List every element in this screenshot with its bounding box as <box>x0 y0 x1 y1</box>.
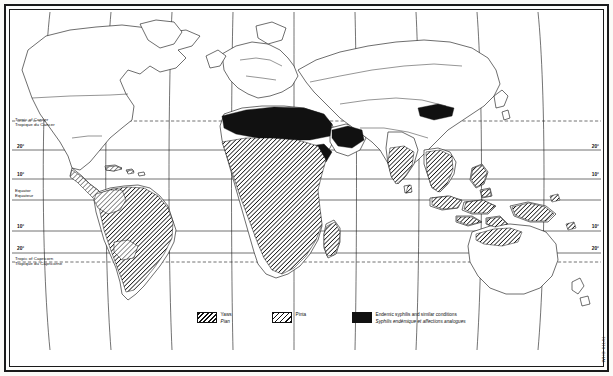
legend-syphilis-en: Endemic syphilis and similar conditions <box>376 312 457 317</box>
legend-yaws-fr: Pian <box>221 319 230 324</box>
legend-swatch-endemic-syphilis-icon <box>352 312 372 323</box>
legend-swatch-yaws-icon <box>197 312 217 323</box>
tropic-cancer-fr: Tropique du Cancer <box>15 122 55 127</box>
map-plate <box>10 10 603 366</box>
legend-item-endemic-syphilis[interactable]: Endemic syphilis and similar conditions … <box>352 312 466 326</box>
legend-swatch-pinta-icon <box>272 312 292 323</box>
legend-label-endemic-syphilis: Endemic syphilis and similar conditions … <box>376 312 466 326</box>
lat-label-left-10s: 10° <box>17 224 24 229</box>
lat-label-left-20s: 20° <box>17 246 24 251</box>
legend-item-yaws[interactable]: Yaws Pian <box>197 312 232 326</box>
lat-label-right-20s: 20° <box>592 246 599 251</box>
who-credit-mark: WHO 61141 <box>601 336 606 362</box>
tropic-capricorn-fr: Tropique du Capricorne <box>15 261 62 266</box>
legend-label-pinta: Pinta <box>296 312 307 319</box>
label-tropic-of-capricorn: Tropic of Capricorn Tropique du Capricor… <box>15 256 62 267</box>
legend-item-pinta[interactable]: Pinta <box>272 312 306 323</box>
label-equator: Equator Equateur <box>15 188 33 199</box>
equator-fr: Equateur <box>15 193 33 198</box>
legend-label-yaws: Yaws Pian <box>221 312 232 326</box>
legend-syphilis-fr: Syphilis endémique et affections analogu… <box>376 319 466 324</box>
label-tropic-of-cancer: Tropic of Cancer Tropique du Cancer <box>15 117 55 128</box>
world-map-svg <box>10 10 603 366</box>
lat-label-left-10n: 10° <box>17 172 24 177</box>
lat-label-left-20n: 20° <box>17 144 24 149</box>
lat-label-right-10s: 10° <box>592 224 599 229</box>
legend-yaws-en: Yaws <box>221 312 232 317</box>
lat-label-right-10n: 10° <box>592 172 599 177</box>
map-sheet: Tropic of Cancer Tropique du Cancer 20° … <box>0 0 613 376</box>
lat-label-right-20n: 20° <box>592 144 599 149</box>
legend-pinta-en: Pinta <box>296 312 307 317</box>
